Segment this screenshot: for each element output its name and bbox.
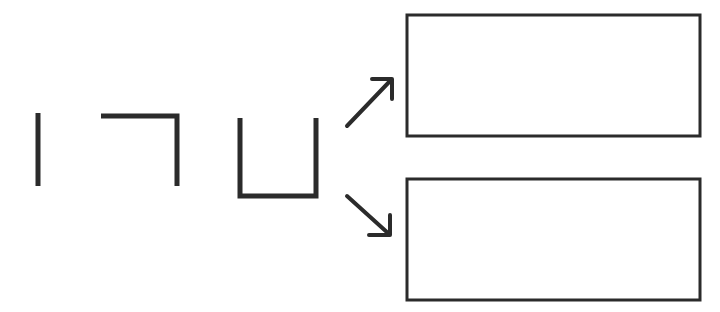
empty-panel-top — [407, 15, 700, 136]
channel-u-stroke — [240, 118, 316, 196]
diagram-canvas — [0, 0, 720, 312]
arrow-down-right-shaft — [347, 196, 389, 234]
panel-group — [407, 15, 700, 300]
arrow-up-right-shaft — [347, 80, 391, 126]
corner-stroke — [101, 116, 177, 186]
arrow-group — [347, 79, 392, 235]
empty-panel-bottom — [407, 179, 700, 300]
diagram-figure — [0, 0, 720, 312]
stroke-group — [38, 113, 316, 196]
